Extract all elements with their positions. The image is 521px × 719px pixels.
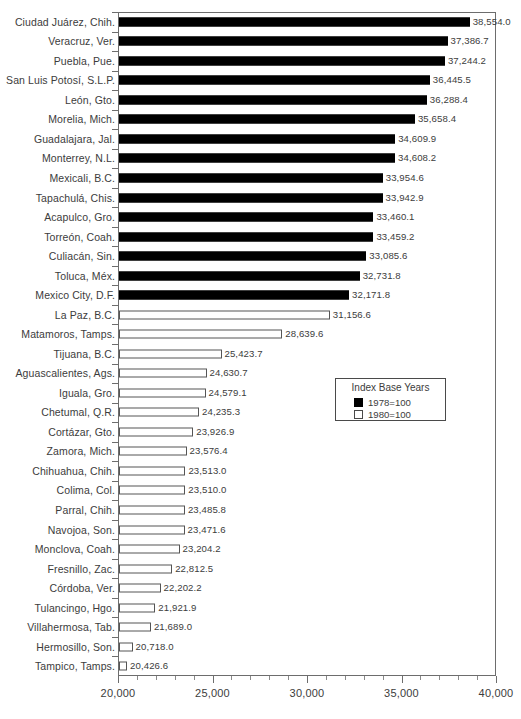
y-axis-tick: [112, 51, 118, 52]
category-label: Chihuahua, Chih.: [32, 465, 115, 476]
y-axis-tick: [112, 461, 118, 462]
bar[interactable]: [119, 17, 470, 26]
bar-chart-figure: Ciudad Juárez, Chih.38,554.0Veracruz, Ve…: [0, 0, 521, 719]
bar-row: Parral, Chih.23,485.8: [0, 500, 521, 520]
bar-value-label: 24,235.3: [202, 407, 240, 417]
legend-title: Index Base Years: [336, 382, 445, 393]
y-axis-tick: [112, 285, 118, 286]
x-axis-tick-major: [496, 676, 497, 683]
bar[interactable]: [119, 252, 366, 261]
y-axis-tick: [112, 324, 118, 325]
bar[interactable]: [119, 388, 206, 397]
y-axis-tick: [112, 32, 118, 33]
bar[interactable]: [119, 505, 185, 514]
bar[interactable]: [119, 662, 127, 671]
y-axis-tick: [112, 207, 118, 208]
bar-value-label: 37,386.7: [451, 36, 489, 46]
x-axis-tick-minor: [288, 676, 289, 680]
x-axis-tick-major: [213, 676, 214, 683]
y-axis-tick: [112, 364, 118, 365]
bar[interactable]: [119, 213, 373, 222]
bar[interactable]: [119, 37, 448, 46]
bar[interactable]: [119, 369, 207, 378]
y-axis-tick: [112, 598, 118, 599]
bar[interactable]: [119, 584, 161, 593]
x-axis-tick-minor: [420, 676, 421, 680]
bar-row: Zamora, Mich.23,576.4: [0, 442, 521, 462]
category-label: Tapachulá, Chis.: [36, 192, 115, 203]
category-label: Fresnillo, Zac.: [48, 563, 115, 574]
category-label: Iguala, Gro.: [59, 387, 115, 398]
bar[interactable]: [119, 427, 193, 436]
bar-row: Guadalajara, Jal.34,609.9: [0, 129, 521, 149]
bar-value-label: 37,244.2: [448, 56, 486, 66]
x-axis-tick-minor: [345, 676, 346, 680]
bar[interactable]: [119, 193, 383, 202]
bar[interactable]: [119, 134, 395, 143]
x-axis-tick-minor: [383, 676, 384, 680]
category-label: Navojoa, Son.: [48, 524, 115, 535]
y-axis-tick: [112, 168, 118, 169]
bar-value-label: 22,812.5: [175, 564, 213, 574]
bar-value-label: 23,513.0: [188, 466, 226, 476]
x-axis-tick-major: [307, 676, 308, 683]
legend-entry-1978[interactable]: 1978=100: [354, 396, 411, 408]
bar-row: Villahermosa, Tab.21,689.0: [0, 617, 521, 637]
bar-value-label: 35,658.4: [418, 114, 456, 124]
bar-row: Fresnillo, Zac.22,812.5: [0, 559, 521, 579]
bar-value-label: 28,639.6: [285, 329, 323, 339]
x-axis-tick-label: 35,000: [384, 687, 419, 699]
bar-row: Monclova, Coah.23,204.2: [0, 539, 521, 559]
bar[interactable]: [119, 466, 185, 475]
category-label: Monclova, Coah.: [35, 544, 115, 555]
legend-box: Index Base Years 1978=100 1980=100: [335, 378, 446, 421]
x-axis-tick-minor: [137, 676, 138, 680]
bar[interactable]: [119, 115, 415, 124]
bar[interactable]: [119, 76, 430, 85]
bar-row: Tulancingo, Hgo.21,921.9: [0, 598, 521, 618]
bar[interactable]: [119, 271, 360, 280]
y-axis-tick: [112, 188, 118, 189]
x-axis-tick-minor: [458, 676, 459, 680]
y-axis-tick: [112, 266, 118, 267]
bar-value-label: 33,085.6: [369, 251, 407, 261]
x-axis-tick-label: 25,000: [195, 687, 230, 699]
bar[interactable]: [119, 642, 133, 651]
bar[interactable]: [119, 408, 199, 417]
bar[interactable]: [119, 564, 172, 573]
bar[interactable]: [119, 486, 185, 495]
bar[interactable]: [119, 56, 445, 65]
bar-value-label: 36,288.4: [430, 95, 468, 105]
y-axis-tick: [112, 500, 118, 501]
y-axis-tick: [112, 656, 118, 657]
bar-row: Colima, Col.23,510.0: [0, 481, 521, 501]
x-axis-tick-minor: [231, 676, 232, 680]
y-axis-tick: [112, 246, 118, 247]
x-axis-tick-major: [118, 676, 119, 683]
bar[interactable]: [119, 623, 151, 632]
bar[interactable]: [119, 95, 427, 104]
x-axis: 20,00025,00030,00035,00040,000: [118, 676, 496, 716]
bar[interactable]: [119, 173, 383, 182]
bar-row: Tampico, Tamps.20,426.6: [0, 656, 521, 676]
bar[interactable]: [119, 232, 373, 241]
legend-entry-1980[interactable]: 1980=100: [354, 408, 411, 420]
x-axis-tick-minor: [250, 676, 251, 680]
bar[interactable]: [119, 154, 395, 163]
bar-row: Mexico City, D.F.32,171.8: [0, 285, 521, 305]
bar-value-label: 20,718.0: [136, 642, 174, 652]
bar[interactable]: [119, 291, 349, 300]
bar[interactable]: [119, 310, 330, 319]
bar[interactable]: [119, 545, 180, 554]
category-label: Aguascalientes, Ags.: [16, 368, 115, 379]
bar-row: Mexicali, B.C.33,954.6: [0, 168, 521, 188]
bar[interactable]: [119, 525, 185, 534]
bar[interactable]: [119, 447, 187, 456]
category-label: Monterrey, N.L.: [42, 153, 115, 164]
bar[interactable]: [119, 330, 282, 339]
category-label: Puebla, Pue.: [54, 55, 115, 66]
category-label: Veracruz, Ver.: [48, 36, 115, 47]
bar[interactable]: [119, 349, 222, 358]
bar-row: Ciudad Juárez, Chih.38,554.0: [0, 12, 521, 32]
bar[interactable]: [119, 603, 155, 612]
